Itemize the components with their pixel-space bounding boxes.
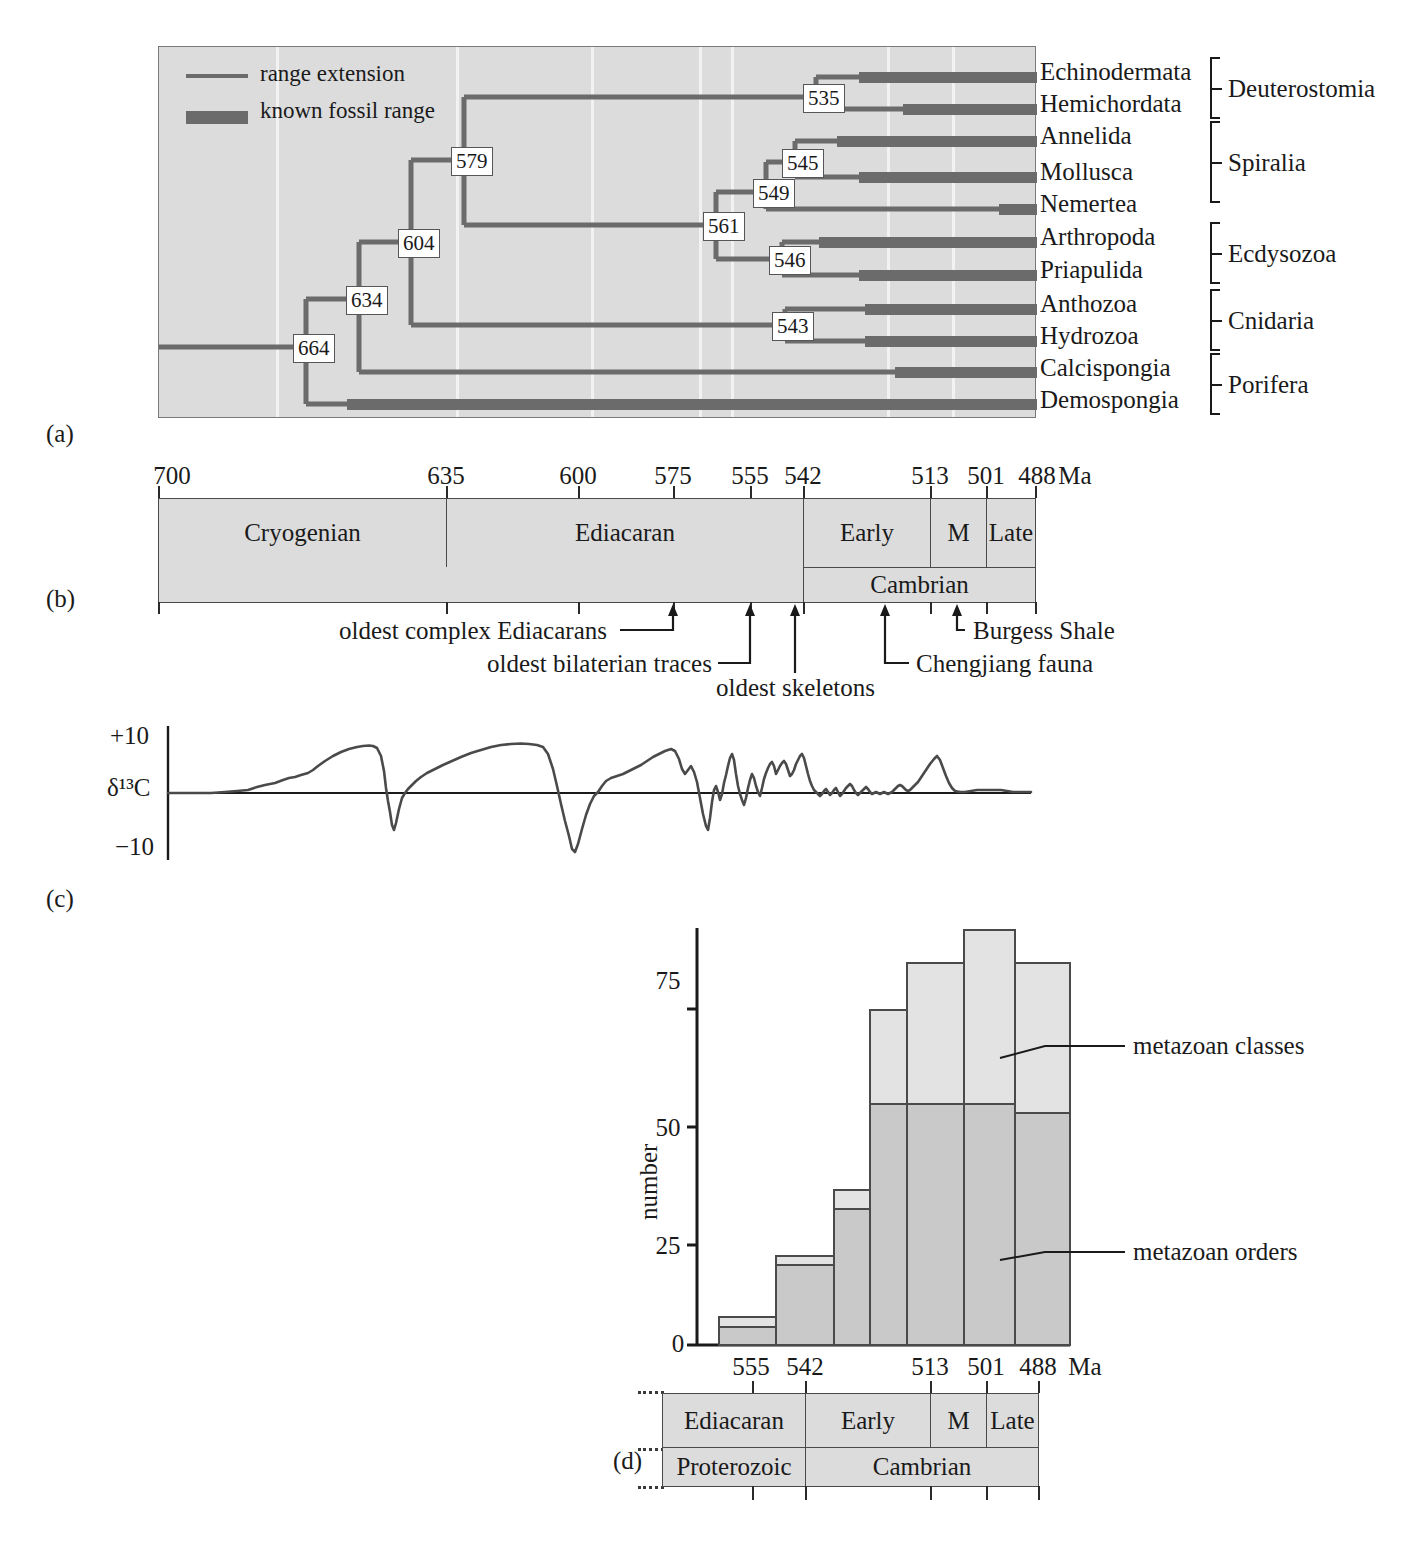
panel-d-xunit-ma: Ma	[1068, 1353, 1101, 1381]
panel-d-tick-501	[986, 1381, 988, 1393]
panel-d-tick-lower-488	[1038, 1486, 1040, 1500]
panel-d-annotation-metazoan-classes: metazoan classes	[1133, 1032, 1304, 1060]
panel-d-xtick-513: 513	[911, 1353, 949, 1381]
panel-d-tick-lower-555	[752, 1486, 754, 1500]
panel-d-xtick-488: 488	[1019, 1353, 1057, 1381]
panel-d-timescale: Ediacaran Early M Late Proterozoic Cambr…	[662, 1391, 1070, 1491]
panel-d-period-middle: M	[930, 1393, 987, 1448]
panel-d-period-early: Early	[805, 1393, 931, 1448]
panel-d-tick-lower-542	[805, 1486, 807, 1500]
panel-d-tick-488	[1038, 1381, 1040, 1393]
dotted-lead-top	[638, 1391, 664, 1394]
panel-d-period-late: Late	[986, 1393, 1039, 1448]
panel-d-bar-chart	[0, 0, 1425, 1562]
panel-d-tick-555	[752, 1381, 754, 1393]
panel-d-xtick-501: 501	[967, 1353, 1005, 1381]
panel-d-period-ediacaran: Ediacaran	[662, 1393, 806, 1448]
dotted-lead-bottom	[638, 1486, 664, 1489]
panel-d-era-proterozoic: Proterozoic	[662, 1447, 806, 1487]
panel-d-tick-542	[805, 1381, 807, 1393]
panel-d-xtick-542: 542	[786, 1353, 824, 1381]
panel-d-tick-lower-513	[930, 1486, 932, 1500]
panel-d-xtick-555: 555	[732, 1353, 770, 1381]
panel-d-tick-lower-501	[986, 1486, 988, 1500]
panel-d-era-cambrian: Cambrian	[805, 1447, 1039, 1487]
panel-d-tick-513	[930, 1381, 932, 1393]
dotted-lead-mid	[638, 1448, 664, 1451]
panel-d-annotation-metazoan-orders: metazoan orders	[1133, 1238, 1298, 1266]
